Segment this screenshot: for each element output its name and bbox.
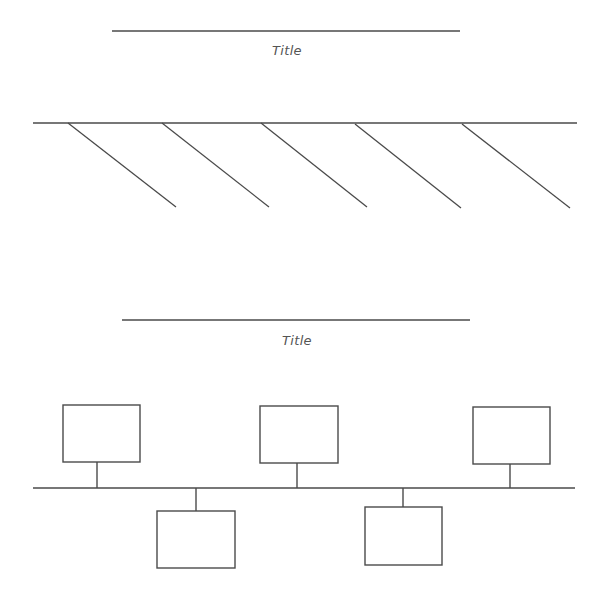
event-box-above-3 xyxy=(473,407,550,464)
event-box-above-2 xyxy=(260,406,338,463)
event-box-below-1 xyxy=(157,511,235,568)
branch-line-4 xyxy=(355,124,461,208)
branch-line-5 xyxy=(462,124,570,208)
event-box-above-1 xyxy=(63,405,140,462)
branch-line-1 xyxy=(68,123,176,207)
timeline-diagram xyxy=(33,320,575,568)
diagram-canvas xyxy=(0,0,608,591)
timeline-title: Title xyxy=(282,333,312,348)
branch-line-2 xyxy=(162,123,269,207)
fishbone-title: Title xyxy=(272,43,302,58)
fishbone-diagram xyxy=(33,31,577,208)
branch-line-3 xyxy=(261,123,367,207)
event-box-below-2 xyxy=(365,507,442,565)
